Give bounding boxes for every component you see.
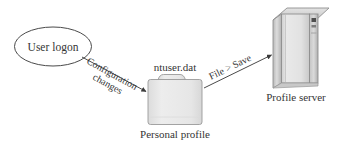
edge-file-save: File > Save xyxy=(204,52,272,88)
server-base xyxy=(273,83,318,88)
edge-configuration-changes: Configuration changes xyxy=(82,55,146,96)
diagram-canvas: User logon Configuration changes ntuser.… xyxy=(0,0,341,152)
diagram-svg: User logon Configuration changes ntuser.… xyxy=(0,0,341,152)
server-left-panel xyxy=(273,14,282,88)
profile-server-caption: Profile server xyxy=(266,91,326,103)
server-drive-strip xyxy=(310,14,319,83)
node-profile-server[interactable]: Profile server xyxy=(266,8,329,103)
server-led-icon xyxy=(312,25,317,28)
user-logon-label: User logon xyxy=(28,41,79,54)
node-user-logon[interactable]: User logon xyxy=(15,27,92,66)
ntuser-dat-label: ntuser.dat xyxy=(154,61,196,73)
personal-profile-caption: Personal profile xyxy=(140,128,210,140)
server-drive-bay-icon xyxy=(312,18,317,22)
node-personal-profile[interactable]: ntuser.dat Personal profile xyxy=(140,61,210,140)
folder-body-shape xyxy=(148,80,202,125)
